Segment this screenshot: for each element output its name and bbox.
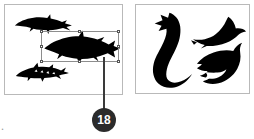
dolphin-silhouette-bottom-right[interactable] (197, 43, 242, 84)
dolphin-silhouette-top-right[interactable] (193, 17, 246, 49)
resize-handle-bottom-right[interactable] (117, 60, 120, 63)
resize-handle-bottom-center[interactable] (78, 60, 81, 63)
resize-handle-middle-right[interactable] (117, 45, 120, 48)
dolphin-silhouette-left[interactable] (153, 13, 192, 88)
selection-bounding-box[interactable] (41, 31, 119, 62)
cropped-corner-glyph: . (1, 120, 9, 133)
resize-handle-top-right[interactable] (117, 30, 120, 33)
resize-handle-bottom-left[interactable] (40, 60, 43, 63)
resize-handle-top-left[interactable] (40, 30, 43, 33)
resize-handle-middle-left[interactable] (40, 45, 43, 48)
dolphin-artwork-group (136, 5, 249, 93)
figure-canvas: 18 . (0, 0, 254, 139)
shark-silhouettes-panel[interactable] (4, 4, 123, 95)
resize-handle-top-center[interactable] (78, 30, 81, 33)
callout-leader-line (103, 57, 105, 111)
dolphin-silhouettes-panel[interactable] (135, 4, 250, 94)
callout-badge-18[interactable]: 18 (92, 108, 116, 132)
